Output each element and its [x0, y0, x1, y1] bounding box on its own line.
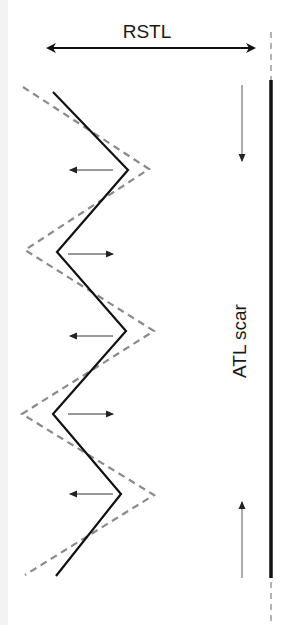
atl-scar-label: ATL scar [229, 303, 250, 378]
rstl-label: RSTL [123, 21, 172, 42]
solid-zigzag [53, 92, 128, 576]
dashed-zigzag [22, 87, 154, 575]
diagram-canvas: RSTL ATL scar [0, 0, 288, 625]
diagram-svg: RSTL ATL scar [0, 0, 288, 625]
